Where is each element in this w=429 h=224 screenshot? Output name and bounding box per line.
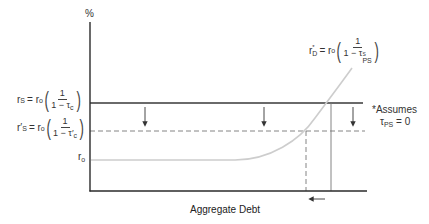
diagram-canvas — [0, 0, 429, 224]
assumption-note: *Assumes τPS = 0 — [372, 104, 417, 131]
left-paren: ( — [46, 117, 50, 139]
x-axis-label: Aggregate Debt — [190, 205, 260, 215]
rd-curve — [91, 68, 352, 160]
rs-prime-label: r′S = ro ( 1 1 − τ′c ) — [17, 117, 85, 139]
right-paren: ) — [80, 117, 84, 139]
rd-fraction: 1 1 − τSPS — [344, 37, 372, 64]
rs-label: rS = ro ( 1 1 − τc ) — [17, 89, 82, 111]
rs-prime-fraction: 1 1 − τ′c — [53, 117, 77, 139]
left-paren: ( — [44, 89, 48, 111]
y-axis-label: % — [85, 9, 94, 19]
rs-fraction: 1 1 − τc — [51, 89, 73, 111]
right-paren: ) — [374, 40, 378, 62]
r0-label: ro — [78, 152, 85, 163]
tax-debt-diagram: % Aggregate Debt rS = ro ( 1 1 − τc ) r′… — [0, 0, 429, 224]
rd-label: r*D = ro ( 1 1 − τSPS ) — [309, 37, 380, 64]
left-paren: ( — [337, 40, 341, 62]
right-paren: ) — [76, 89, 80, 111]
